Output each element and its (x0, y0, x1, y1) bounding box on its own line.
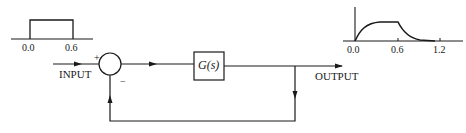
input-label: INPUT (59, 69, 91, 80)
error-arrow-icon (149, 62, 157, 67)
output-response-curve (355, 22, 435, 41)
output-tick-1: 0.6 (391, 45, 404, 55)
output-label: OUTPUT (315, 71, 358, 82)
input-tick-0: 0.0 (22, 43, 35, 53)
output-tick-2: 1.2 (433, 45, 446, 55)
input-arrow-icon (74, 62, 82, 67)
input-tick-1: 0.6 (65, 43, 78, 53)
output-tick-0: 0.0 (347, 45, 360, 55)
summing-junction (99, 53, 121, 75)
feedback-up-arrow-icon (108, 95, 113, 103)
output-response-plot (343, 7, 463, 41)
input-pulse-plot (11, 20, 93, 39)
block-label: G(s) (198, 59, 219, 71)
input-pulse-shape (30, 20, 73, 39)
feedback-down-arrow-icon (293, 91, 298, 99)
minus-sign: − (120, 77, 126, 87)
output-arrow-icon (335, 64, 343, 69)
plus-sign: + (94, 53, 100, 63)
block-diagram-canvas (0, 0, 466, 133)
